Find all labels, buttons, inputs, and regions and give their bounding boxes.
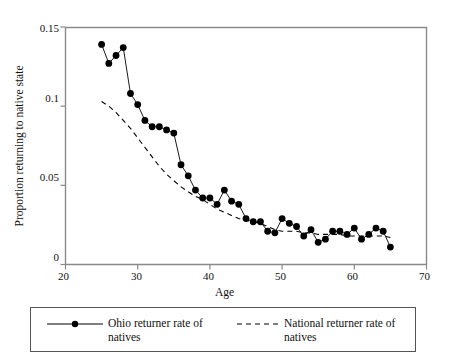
data-point	[329, 228, 336, 235]
x-tick-label-30: 30	[131, 270, 142, 282]
data-point	[300, 233, 307, 240]
data-point	[293, 223, 300, 230]
data-point	[113, 52, 120, 59]
data-point	[380, 228, 387, 235]
data-point	[105, 60, 112, 67]
data-point	[279, 215, 286, 222]
data-point	[286, 220, 293, 227]
x-tick-label-20: 20	[58, 270, 69, 282]
chart-series	[98, 41, 394, 250]
data-point	[134, 101, 141, 108]
y-tick-label-0: 0	[54, 251, 60, 263]
y-tick-label-0.15: 0.15	[40, 22, 59, 34]
data-point	[264, 228, 271, 235]
data-point	[351, 225, 358, 232]
data-point	[358, 236, 365, 243]
legend-sample-solid-marker	[47, 319, 103, 329]
data-point	[156, 123, 163, 130]
x-tick-label-70: 70	[419, 270, 430, 282]
data-point	[178, 161, 185, 168]
x-tick-label-50: 50	[275, 270, 286, 282]
data-point	[207, 195, 214, 202]
data-point	[221, 187, 228, 194]
data-point	[365, 231, 372, 238]
data-point	[344, 231, 351, 238]
data-point	[149, 123, 156, 130]
data-point	[120, 44, 127, 51]
data-point	[98, 41, 105, 48]
y-tick-label-0.1: 0.1	[45, 92, 59, 104]
data-point	[322, 236, 329, 243]
data-point	[308, 226, 315, 233]
data-point	[315, 239, 322, 246]
data-point	[142, 117, 149, 124]
data-point	[373, 225, 380, 232]
legend-item-national: National returner rate of natives	[237, 316, 414, 344]
data-point	[127, 90, 134, 97]
data-point	[192, 187, 199, 194]
chart-figure: 0.15 0.1 0.05 0 20 30 40 50 60 70 Age Pr…	[0, 0, 449, 364]
data-point	[170, 130, 177, 137]
data-point	[271, 229, 278, 236]
x-tick-label-60: 60	[347, 270, 358, 282]
data-point	[163, 127, 170, 134]
legend-label-ohio: Ohio returner rate of natives	[108, 316, 238, 344]
data-point	[235, 201, 242, 208]
chart-legend: Ohio returner rate of natives National r…	[30, 307, 416, 352]
x-tick-label-40: 40	[203, 270, 214, 282]
legend-label-national: National returner rate of natives	[284, 316, 414, 344]
data-point	[336, 228, 343, 235]
legend-sample-dashed	[237, 319, 279, 329]
x-axis-label: Age	[0, 286, 449, 298]
data-point	[228, 198, 235, 205]
data-point	[185, 172, 192, 179]
y-tick-label-0.05: 0.05	[40, 171, 59, 183]
y-axis-label: Proportion returning to native state	[13, 41, 25, 251]
data-point	[214, 201, 221, 208]
plot-frame	[66, 27, 428, 265]
legend-item-ohio: Ohio returner rate of natives	[47, 316, 238, 344]
data-point	[387, 244, 394, 251]
